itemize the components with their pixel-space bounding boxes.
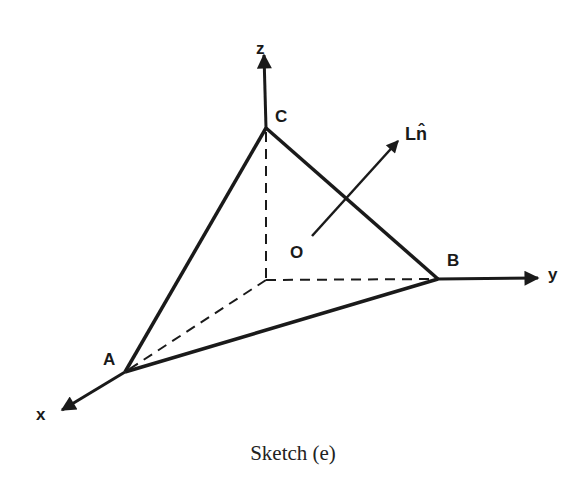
normal-vector-arrow xyxy=(312,141,398,236)
point-o-label: O xyxy=(290,244,303,261)
dashed-y-segment xyxy=(266,279,436,280)
y-axis-label: y xyxy=(548,266,557,283)
point-a-label: A xyxy=(103,351,115,368)
normal-vector-label: Ln̂ xyxy=(405,125,427,143)
x-axis-label: x xyxy=(36,406,45,423)
figure-caption: Sketch (e) xyxy=(0,441,586,466)
point-c-label: C xyxy=(275,108,287,125)
point-b-label: B xyxy=(447,252,459,269)
dashed-x-segment xyxy=(128,280,266,370)
hidden-axes xyxy=(128,132,436,370)
x-axis-arrow xyxy=(62,372,125,410)
z-axis-label: z xyxy=(256,40,265,57)
y-axis-arrow xyxy=(438,278,538,279)
triangle-abc xyxy=(125,128,438,372)
z-axis-arrow xyxy=(264,55,266,128)
